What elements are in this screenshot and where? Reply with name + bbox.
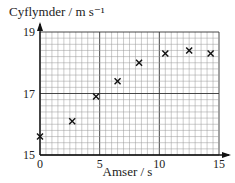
data-point-x-marker <box>69 118 75 124</box>
y-axis-arrow-icon <box>37 22 43 31</box>
grid <box>40 32 219 155</box>
y-tick-label: 19 <box>23 25 35 39</box>
y-tick-label: 17 <box>23 87 35 101</box>
y-tick-label: 15 <box>23 148 35 162</box>
data-point-x-marker <box>93 94 99 100</box>
x-axis-label: Amser / s <box>0 164 235 180</box>
scatter-plot: 051015151719 <box>0 0 235 183</box>
data-point-x-marker <box>208 51 214 57</box>
